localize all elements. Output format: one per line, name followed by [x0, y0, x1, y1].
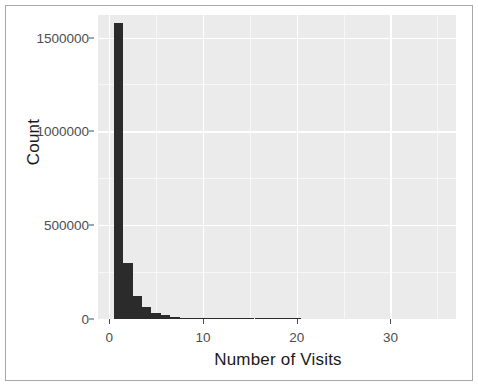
- x-tick-mark: [390, 319, 391, 324]
- histogram-bar: [189, 318, 198, 319]
- histogram-bar: [217, 318, 226, 319]
- gridline-minor-vertical: [344, 15, 345, 319]
- chart-figure: Count Number of Visits 05000001000000150…: [5, 5, 473, 381]
- gridline-minor-horizontal: [98, 84, 456, 85]
- histogram-bar: [255, 318, 264, 319]
- histogram-bar: [170, 317, 179, 319]
- gridline-minor-vertical: [437, 15, 438, 319]
- gridline-major-vertical: [109, 15, 110, 319]
- histogram-bar: [208, 318, 217, 319]
- x-tick-mark: [297, 319, 298, 324]
- x-tick-label: 20: [289, 330, 304, 345]
- histogram-bar: [273, 318, 282, 319]
- histogram-bar: [283, 318, 292, 319]
- gridline-major-horizontal: [98, 225, 456, 226]
- histogram-bar: [133, 296, 142, 319]
- x-tick-label: 10: [195, 330, 210, 345]
- histogram-bar: [226, 318, 235, 319]
- gridline-minor-vertical: [250, 15, 251, 319]
- histogram-bar: [142, 307, 151, 319]
- x-tick-mark: [109, 319, 110, 324]
- gridline-minor-vertical: [156, 15, 157, 319]
- histogram-bar: [114, 23, 123, 319]
- gridline-major-vertical: [390, 15, 391, 319]
- gridline-major-horizontal: [98, 38, 456, 39]
- histogram-bar: [236, 318, 245, 319]
- gridline-minor-horizontal: [98, 178, 456, 179]
- histogram-bar: [198, 318, 207, 319]
- gridline-major-vertical: [297, 15, 298, 319]
- histogram-bar: [123, 263, 132, 319]
- x-tick-mark: [203, 319, 204, 324]
- gridline-major-vertical: [203, 15, 204, 319]
- gridline-minor-horizontal: [98, 272, 456, 273]
- histogram-bar: [264, 318, 273, 319]
- histogram-bar: [292, 318, 301, 319]
- x-tick-label: 0: [105, 330, 113, 345]
- histogram-bar: [151, 313, 160, 319]
- histogram-bar: [161, 315, 170, 319]
- histogram-bar: [245, 318, 254, 319]
- x-tick-label: 30: [383, 330, 398, 345]
- histogram-bar: [180, 318, 189, 320]
- gridline-major-horizontal: [98, 131, 456, 132]
- plot-panel: [98, 15, 456, 319]
